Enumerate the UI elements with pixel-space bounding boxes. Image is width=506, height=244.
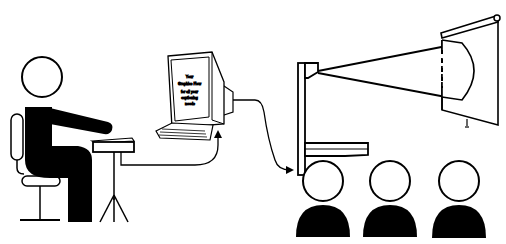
monitor-text-line2: Graphics Flow: [178, 82, 201, 86]
audience-member-3: [432, 161, 486, 238]
audience: [296, 161, 486, 238]
captioner-arm: [50, 108, 113, 134]
projector-light-beam: [318, 43, 462, 100]
monitor-text-line1: Your: [186, 75, 194, 79]
stenotype-machine: [92, 138, 134, 222]
cable-computer-to-projector: [233, 100, 292, 170]
projection-screen: [441, 15, 500, 127]
audience-member-1: [296, 161, 350, 237]
captioning-diagram: Your Graphics Flow for all your captioni…: [0, 0, 506, 244]
keyboard: [156, 123, 213, 140]
captioner-head: [22, 57, 62, 97]
audience-member-2: [363, 161, 417, 237]
monitor-screen: [171, 57, 209, 121]
computer: Your Graphics Flow for all your captioni…: [156, 52, 233, 140]
monitor-text-line5: needs: [185, 102, 195, 106]
monitor-text-line3: for all your: [181, 90, 199, 94]
monitor-text-line4: captioning: [181, 96, 197, 100]
captioner-figure: [11, 57, 113, 222]
